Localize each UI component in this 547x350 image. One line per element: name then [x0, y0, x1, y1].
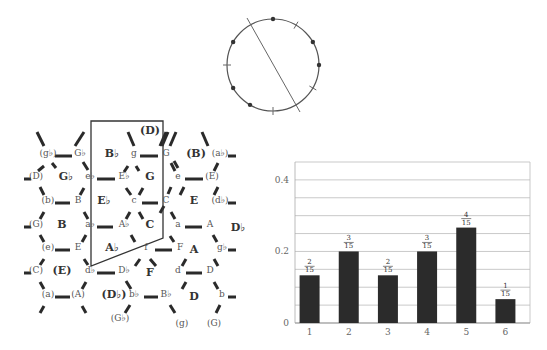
bar-value-numerator: 2: [386, 258, 390, 266]
y-tick-label: 0: [283, 318, 289, 328]
bar: [378, 275, 398, 323]
bar: [495, 299, 515, 323]
x-tick-label: 5: [463, 327, 469, 337]
bar-value-denominator: 15: [305, 266, 314, 274]
x-tick-label: 2: [346, 327, 352, 337]
bar-value-numerator: 4: [464, 211, 469, 219]
bar: [300, 275, 320, 323]
bar-value-denominator: 15: [383, 266, 392, 274]
bar: [456, 228, 476, 323]
x-tick-label: 1: [307, 327, 313, 337]
bar-value-numerator: 3: [347, 234, 351, 242]
chart-bars: [300, 228, 516, 323]
x-tick-label: 6: [503, 327, 509, 337]
bar-value-numerator: 2: [307, 258, 311, 266]
x-tick-label: 4: [424, 327, 430, 337]
y-tick-label: 0.4: [275, 175, 290, 185]
bar-value-denominator: 15: [344, 242, 353, 250]
bar-chart: 00.20.4121523153215431554156115: [0, 0, 547, 350]
bar-value-denominator: 15: [501, 290, 510, 298]
bar: [417, 251, 437, 323]
bar-value-numerator: 3: [425, 234, 429, 242]
bar-value-numerator: 1: [503, 282, 507, 290]
x-tick-label: 3: [385, 327, 391, 337]
bar-value-denominator: 15: [423, 242, 432, 250]
bar-value-denominator: 15: [462, 219, 471, 227]
chart-gridlines: [295, 162, 530, 323]
y-tick-label: 0.2: [275, 246, 289, 256]
bar: [339, 251, 359, 323]
